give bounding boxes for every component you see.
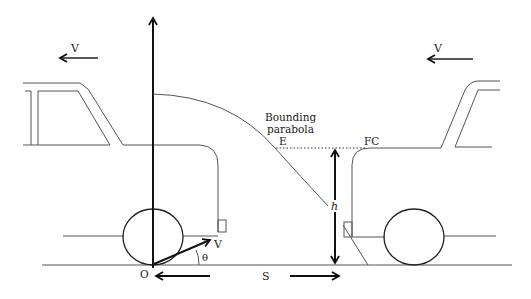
left-car [23,83,226,265]
angle-arc [196,250,199,265]
label-launch-velocity: V [213,238,223,251]
label-height: h [331,200,338,213]
right-car-bumper [344,222,352,237]
label-angle: θ [202,252,208,263]
label-point-fc: FC [364,135,379,147]
label-origin: O [140,268,149,280]
left-car-bumper [218,220,226,232]
projectile-car-diagram: V V Bounding parabola E FC h V θ O S [0,0,531,299]
label-separation: S [262,270,270,283]
label-bounding: Bounding [265,111,316,123]
right-car [343,81,500,265]
right-car-wheel [384,209,444,265]
left-car-window [38,91,110,145]
right-car-outer [352,81,500,237]
label-velocity-right: V [433,42,443,55]
right-car-diagonal [343,225,368,265]
label-point-e: E [279,135,287,147]
left-car-roof [23,83,218,232]
label-parabola: parabola [267,123,314,135]
label-velocity-left: V [70,42,80,55]
